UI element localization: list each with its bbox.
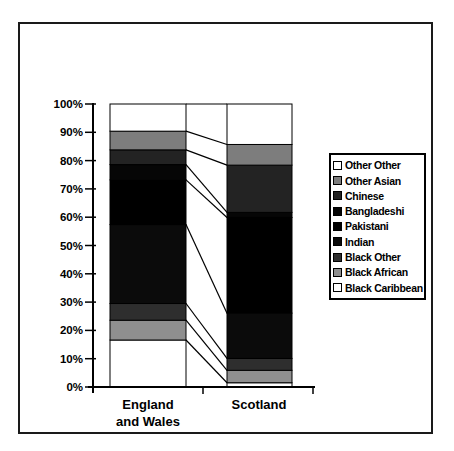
y-axis-tick-label: 30% (60, 296, 83, 308)
bar-segment-england-and-wales-indian (110, 225, 186, 304)
legend-label: Black Caribbean (345, 282, 423, 294)
legend-item-chinese: Chinese (333, 190, 422, 202)
series-connector-line (186, 180, 227, 218)
legend-item-other-asian: Other Asian (333, 175, 422, 187)
series-connector-line (186, 150, 227, 165)
legend-swatch-icon (333, 161, 342, 170)
legend-swatch-icon (333, 253, 342, 262)
series-connector-line (186, 131, 227, 144)
series-connector-line (186, 320, 227, 370)
legend-label: Black Other (345, 251, 401, 263)
bar-segment-scotland-black-african (227, 370, 292, 382)
x-axis-category-label: Scotland (232, 397, 287, 412)
legend-swatch-icon (333, 283, 342, 292)
bar-segment-england-and-wales-bangladeshi (110, 165, 186, 180)
bar-segment-scotland-chinese (227, 165, 292, 212)
legend: Other OtherOther AsianChineseBangladeshi… (329, 153, 426, 300)
figure-page: 0%10%20%30%40%50%60%70%80%90%100%England… (0, 0, 454, 451)
series-connector-line (186, 165, 227, 213)
bar-segment-england-and-wales-pakistani (110, 180, 186, 225)
y-axis-tick-label: 70% (60, 183, 83, 195)
legend-swatch-icon (333, 191, 342, 200)
legend-item-other-other: Other Other (333, 159, 422, 171)
bar-segment-scotland-other-asian (227, 144, 292, 165)
bar-segment-scotland-bangladeshi (227, 212, 292, 217)
legend-swatch-icon (333, 237, 342, 246)
legend-item-bangladeshi: Bangladeshi (333, 205, 422, 217)
legend-swatch-icon (333, 207, 342, 216)
bar-segment-scotland-black-other (227, 358, 292, 370)
series-connector-line (186, 304, 227, 359)
y-axis-tick-label: 60% (60, 211, 83, 223)
bar-segment-england-and-wales-other-other (110, 104, 186, 131)
legend-swatch-icon (333, 268, 342, 277)
bar-segment-scotland-other-other (227, 104, 292, 144)
y-axis-tick-label: 80% (60, 155, 83, 167)
legend-label: Other Other (345, 159, 401, 171)
legend-swatch-icon (333, 176, 342, 185)
legend-label: Pakistani (345, 220, 388, 232)
y-axis-tick-label: 50% (60, 240, 83, 252)
y-axis-tick-label: 20% (60, 324, 83, 336)
bar-segment-england-and-wales-black-other (110, 304, 186, 321)
legend-item-black-caribbean: Black Caribbean (333, 282, 422, 294)
x-axis-category-label: England (122, 397, 173, 412)
legend-swatch-icon (333, 222, 342, 231)
legend-item-pakistani: Pakistani (333, 220, 422, 232)
bar-segment-england-and-wales-chinese (110, 150, 186, 165)
legend-label: Other Asian (345, 175, 401, 187)
bar-segment-england-and-wales-other-asian (110, 131, 186, 150)
x-axis-category-label: and Wales (116, 414, 180, 429)
legend-item-indian: Indian (333, 236, 422, 248)
legend-item-black-african: Black African (333, 266, 422, 278)
legend-item-black-other: Black Other (333, 251, 422, 263)
bar-segment-scotland-pakistani (227, 217, 292, 313)
legend-label: Bangladeshi (345, 205, 404, 217)
series-connector-line (186, 225, 227, 314)
bar-segment-england-and-wales-black-african (110, 320, 186, 340)
y-axis-tick-label: 10% (60, 353, 83, 365)
y-axis-tick-label: 100% (54, 98, 83, 110)
y-axis-tick-label: 0% (66, 381, 83, 393)
legend-label: Chinese (345, 190, 384, 202)
bar-segment-england-and-wales-black-caribbean (110, 340, 186, 387)
bar-segment-scotland-indian (227, 313, 292, 358)
legend-label: Indian (345, 236, 374, 248)
legend-label: Black African (345, 266, 408, 278)
y-axis-tick-label: 90% (60, 126, 83, 138)
y-axis-tick-label: 40% (60, 268, 83, 280)
series-connector-line (186, 340, 227, 383)
